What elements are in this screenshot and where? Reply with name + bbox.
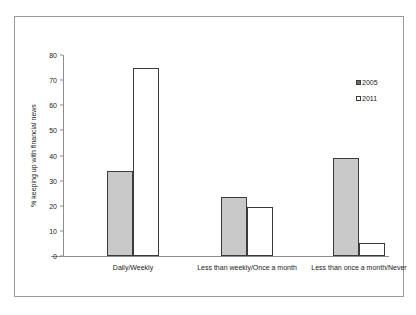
y-axis-tick-label: 70 [49, 77, 60, 84]
y-axis-tick: 70 [49, 77, 63, 84]
bar-2011-2[interactable] [247, 207, 273, 256]
legend-label: 2005 [362, 79, 378, 86]
y-axis-tick-label: 40 [49, 152, 60, 159]
legend-item-2005[interactable]: 2005 [356, 79, 378, 86]
y-axis-tick: 80 [49, 52, 63, 59]
bar-2005-1[interactable] [107, 171, 133, 256]
y-axis-tick-label: 30 [49, 177, 60, 184]
y-axis-title: % keeping up with financial news [29, 55, 39, 256]
y-axis-tick-mark [60, 180, 63, 181]
y-axis-tick-label: 10 [49, 227, 60, 234]
y-axis-tick-label: 20 [49, 202, 60, 209]
bar-2005-2[interactable] [221, 197, 247, 256]
bar-2005-3[interactable] [333, 158, 359, 256]
y-axis-tick-label: 60 [49, 102, 60, 109]
y-axis-tick: 20 [49, 202, 63, 209]
y-axis-tick-mark [60, 80, 63, 81]
legend-swatch-icon [356, 96, 361, 101]
plot-area: 80706050403020100Daily/WeeklyLess than w… [63, 55, 389, 256]
y-axis-tick: 60 [49, 102, 63, 109]
y-axis-tick-mark [60, 105, 63, 106]
y-axis-tick: 0 [53, 253, 63, 260]
legend-item-2011[interactable]: 2011 [356, 95, 378, 102]
x-axis-line [51, 256, 389, 257]
x-axis-category-label: Less than once a month/Never [311, 264, 406, 272]
y-axis-tick: 50 [49, 127, 63, 134]
y-axis-tick-mark [60, 205, 63, 206]
y-axis-tick-mark [60, 230, 63, 231]
bar-2011-1[interactable] [133, 68, 159, 256]
legend-swatch-icon [356, 80, 361, 85]
bar-group-bars [106, 55, 160, 256]
chart-figure: % keeping up with financial news 8070605… [14, 16, 404, 297]
bar-group: Less than weekly/Once a month [220, 55, 274, 256]
y-axis-tick-mark [60, 256, 63, 257]
chart-legend: 20052011 [356, 79, 378, 111]
bar-group-bars [220, 55, 274, 256]
legend-label: 2011 [362, 95, 377, 102]
y-axis-tick: 10 [49, 227, 63, 234]
y-axis-tick-mark [60, 55, 63, 56]
bar-group: Daily/Weekly [106, 55, 160, 256]
y-axis-tick-label: 80 [49, 52, 60, 59]
x-axis-category-label: Daily/Weekly [113, 264, 153, 272]
y-axis-tick-mark [60, 130, 63, 131]
y-axis-tick: 40 [49, 152, 63, 159]
bar-2011-3[interactable] [359, 243, 385, 256]
y-axis-tick-mark [60, 155, 63, 156]
y-axis-tick: 30 [49, 177, 63, 184]
y-axis-tick-label: 0 [53, 253, 60, 260]
x-axis-category-label: Less than weekly/Once a month [197, 264, 297, 272]
y-axis-tick-label: 50 [49, 127, 60, 134]
